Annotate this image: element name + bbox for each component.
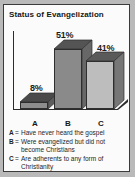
bar-c-side-face bbox=[114, 52, 124, 109]
bar-a-front bbox=[20, 102, 48, 109]
x-axis bbox=[13, 109, 117, 110]
bar-c-top-face bbox=[86, 52, 114, 61]
bar-a-value-label: 8% bbox=[30, 83, 43, 93]
legend-text-a: Have never heard the gospel bbox=[21, 129, 127, 137]
page-title: Status of Evangelization bbox=[9, 10, 104, 19]
legend-text-b: Were evangelized but did not become Chri… bbox=[21, 138, 127, 155]
bar-b-front bbox=[54, 49, 82, 109]
bar-b-top-face bbox=[54, 40, 82, 49]
chart-legend: A = Have never heard the gospel B = Were… bbox=[9, 129, 127, 172]
bar-c-front bbox=[86, 61, 114, 109]
legend-text-c: Are adherents to any form of Christianit… bbox=[21, 155, 127, 172]
bar-a bbox=[20, 102, 48, 109]
legend-item-a: A = Have never heard the gospel bbox=[9, 129, 127, 137]
chart-plot-area: 8% 51% 41% bbox=[10, 27, 125, 120]
x-tick-c: C bbox=[98, 119, 104, 128]
x-tick-a: A bbox=[32, 119, 38, 128]
legend-item-c: C = Are adherents to any form of Christi… bbox=[9, 155, 127, 172]
x-tick-b: B bbox=[65, 119, 71, 128]
bar-c-value-label: 41% bbox=[97, 43, 114, 53]
bar-b bbox=[54, 49, 82, 109]
bar-b-value-label: 51% bbox=[56, 30, 73, 40]
bar-c bbox=[86, 61, 114, 109]
chart-card: Status of Evangelization 8% bbox=[3, 4, 130, 172]
y-axis bbox=[13, 31, 14, 110]
legend-item-b: B = Were evangelized but did not become … bbox=[9, 138, 127, 155]
bar-a-top-face bbox=[20, 93, 48, 102]
